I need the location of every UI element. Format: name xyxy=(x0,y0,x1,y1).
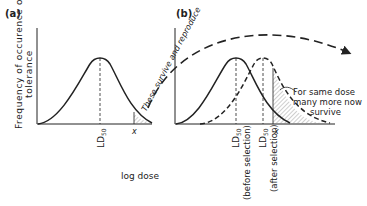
panel-a-tolerance-curve xyxy=(38,58,152,124)
tolerance-selection-diagram: Frequency of occurence of tolerance (a) … xyxy=(0,0,367,206)
panel-a-survivor-area xyxy=(134,114,152,124)
panel-a-label: (a) xyxy=(5,8,21,19)
panel-b: (b) LD50 (before selection) LD50 (after … xyxy=(175,8,362,200)
svg-text:LD50: LD50 xyxy=(96,128,107,148)
note-line1: For same dose xyxy=(293,87,355,97)
panel-b-x-marker: x xyxy=(273,127,279,136)
note-line3: survive xyxy=(310,107,341,117)
panel-a-ld50-label: LD50 xyxy=(96,128,107,148)
x-axis-label: log dose xyxy=(121,171,159,181)
y-axis-label-line1: Frequency of occurence of xyxy=(14,0,24,129)
svg-text:LD50: LD50 xyxy=(231,128,242,148)
panel-b-label: (b) xyxy=(176,8,192,19)
arrow-text: These survive and reproduce xyxy=(140,6,203,113)
panel-b-ld50-after-label: LD50 xyxy=(258,128,269,148)
panel-a-x-marker: x xyxy=(131,127,137,136)
panel-b-ld50-before-label: LD50 xyxy=(231,128,242,148)
note-line2: many more now xyxy=(293,97,362,107)
y-axis-label-line2: tolerance xyxy=(24,50,34,98)
panel-b-ld50-before-note: (before selection) xyxy=(242,125,252,200)
svg-text:LD50: LD50 xyxy=(258,128,269,148)
